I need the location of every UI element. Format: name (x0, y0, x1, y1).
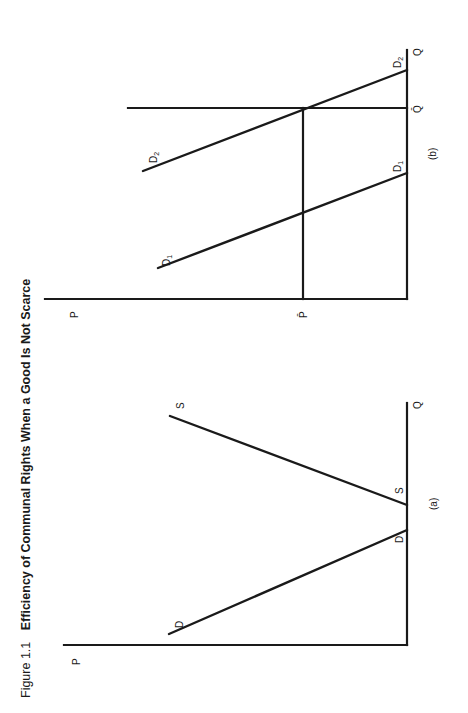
panel-b-demand-d2 (143, 70, 407, 171)
panel-b-demand-d1 (158, 173, 407, 268)
panel-b-price-bar-label: P̄ (297, 311, 309, 318)
panel-a-demand-end-label: D (394, 536, 405, 543)
panel-a-caption: (a) (428, 498, 439, 510)
panel-a-demand-curve (169, 530, 407, 634)
panel-a-quantity-axis-label: Q (412, 401, 423, 409)
panel-b-caption: (b) (427, 148, 438, 160)
panel-a: P Q (a) D D S S (64, 401, 439, 665)
panel-a-price-axis-label: P (71, 658, 82, 665)
panel-b-d2-end-label: D2 (392, 57, 404, 68)
panel-b: P P̄ Q Q̄ (b) D1 D1 D2 D2 (45, 48, 438, 318)
panel-a-supply-start-label: S (175, 402, 186, 409)
figure-number: Figure 1.1 (19, 642, 33, 698)
svg-text:Figure 1.1 Efficiency of: Figure 1.1 Efficiency of Communal Rights… (19, 279, 33, 698)
panel-b-quantity-axis-label: Q (412, 48, 423, 56)
panel-b-price-axis-label: P (69, 311, 80, 318)
panel-b-d2-start-label: D2 (148, 152, 160, 163)
panel-b-quantity-bar-label: Q̄ (411, 105, 423, 113)
panel-a-supply-curve (170, 416, 407, 505)
figure-title-text: Efficiency of Communal Rights When a Goo… (19, 279, 33, 630)
panel-a-supply-end-label: S (394, 487, 405, 494)
panel-b-d1-start-label: D1 (161, 255, 173, 266)
panel-a-demand-start-label: D (174, 621, 185, 628)
figure-canvas: Figure 1.1 Efficiency of Communal Rights… (0, 0, 468, 713)
figure-title: Figure 1.1 Efficiency of Communal Rights… (19, 279, 33, 698)
panel-b-d1-end-label: D1 (392, 161, 404, 172)
